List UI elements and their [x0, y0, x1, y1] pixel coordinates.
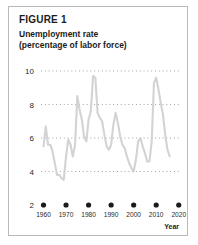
x-tick-label-2020: 2020	[171, 211, 186, 218]
x-tick-label-1960: 1960	[36, 211, 51, 218]
y-tick-label-10: 10	[25, 67, 34, 76]
x-tick-dot-1970	[63, 202, 68, 207]
x-tick-dot-2020	[176, 202, 181, 207]
x-tick-label-1990: 1990	[104, 211, 119, 218]
y-tick-label-2: 2	[30, 201, 35, 210]
x-tick-label-2010: 2010	[149, 211, 164, 218]
y-axis-tick-labels: 108642	[25, 67, 34, 210]
x-axis-tick-labels: 1960197019801990200020102020	[36, 211, 186, 218]
y-tick-label-6: 6	[30, 134, 35, 143]
x-axis-tick-dots	[41, 202, 181, 207]
figure-container: FIGURE 1 Unemployment rate (percentage o…	[8, 6, 188, 236]
x-tick-dot-2010	[154, 202, 159, 207]
x-axis-title: Year	[164, 223, 179, 230]
x-tick-label-1970: 1970	[59, 211, 74, 218]
y-tick-label-8: 8	[30, 101, 35, 110]
x-tick-dot-2000	[131, 202, 136, 207]
x-tick-label-2000: 2000	[126, 211, 141, 218]
x-tick-dot-1980	[86, 202, 91, 207]
series-line-0	[44, 76, 170, 180]
chart-plot-area: 108642 1960197019801990200020102020 Year	[9, 7, 189, 237]
x-tick-label-1980: 1980	[81, 211, 96, 218]
gridlines	[41, 71, 181, 172]
x-tick-dot-1960	[41, 202, 46, 207]
y-tick-label-4: 4	[30, 168, 35, 177]
unemployment-line-chart: 108642 1960197019801990200020102020 Year	[9, 7, 189, 237]
x-tick-dot-1990	[109, 202, 114, 207]
data-series	[44, 76, 170, 180]
